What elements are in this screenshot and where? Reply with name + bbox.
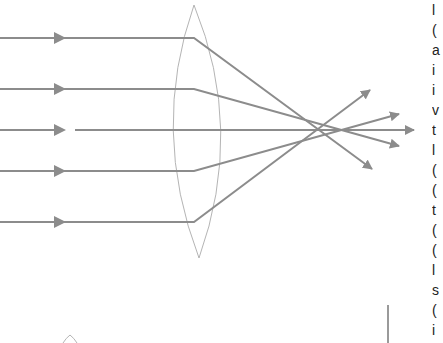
incoming-arrow-icons bbox=[54, 32, 66, 228]
edge-char: i bbox=[432, 60, 443, 80]
edge-char: ( bbox=[432, 220, 443, 240]
edge-char: ( bbox=[432, 300, 443, 320]
edge-char: l bbox=[432, 260, 443, 280]
edge-char: ( bbox=[432, 180, 443, 200]
edge-char: ( bbox=[432, 160, 443, 180]
edge-char: v bbox=[432, 100, 443, 120]
edge-char: l bbox=[432, 140, 443, 160]
edge-char: i bbox=[432, 80, 443, 100]
edge-char: s bbox=[432, 280, 443, 300]
edge-char: ( bbox=[432, 240, 443, 260]
clipped-text-column: l ( a i i v t l ( ( t ( ( l s ( i bbox=[432, 0, 443, 343]
edge-char: t bbox=[432, 120, 443, 140]
ray-5 bbox=[0, 90, 370, 222]
edge-char: t bbox=[432, 200, 443, 220]
second-lens-fragment bbox=[63, 335, 77, 343]
edge-char: l bbox=[432, 0, 443, 20]
edge-char: ( bbox=[432, 20, 443, 40]
ray-1 bbox=[0, 38, 372, 169]
lens-ray-diagram bbox=[0, 0, 443, 343]
edge-char: a bbox=[432, 40, 443, 60]
ray-4 bbox=[0, 114, 399, 171]
edge-char: i bbox=[432, 320, 443, 340]
ray-2 bbox=[0, 89, 399, 146]
